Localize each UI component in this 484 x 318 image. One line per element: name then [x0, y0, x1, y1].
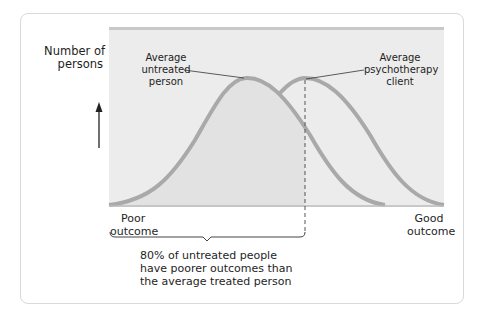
annotation-untreated-line1: Average	[138, 52, 194, 64]
annotation-treated-line2: psychotherapy	[364, 64, 436, 76]
caption-line2: have poorer outcomes than	[140, 262, 274, 275]
annotation-untreated: Average untreated person	[138, 52, 194, 88]
annotation-treated-line1: Average	[364, 52, 436, 64]
x-right-label-line2: outcome	[407, 225, 451, 238]
x-right-label-line1: Good	[407, 212, 451, 225]
caption-line3: the average treated person	[140, 275, 274, 288]
y-axis-label: Number of persons	[33, 45, 105, 71]
top-band	[109, 27, 444, 30]
caption-line1: 80% of untreated people	[140, 249, 274, 262]
annotation-untreated-line2: untreated	[138, 64, 194, 76]
annotation-untreated-line3: person	[138, 76, 194, 88]
x-left-label-line1: Poor	[110, 212, 158, 225]
annotation-treated: Average psychotherapy client	[364, 52, 436, 88]
annotation-treated-line3: client	[364, 76, 436, 88]
caption: 80% of untreated people have poorer outc…	[140, 249, 274, 288]
x-left-label: Poor outcome	[110, 212, 158, 238]
x-left-label-line2: outcome	[110, 225, 158, 238]
x-right-label: Good outcome	[407, 212, 451, 238]
y-axis-label-line2: persons	[33, 58, 105, 71]
up-arrow-icon	[96, 102, 103, 112]
